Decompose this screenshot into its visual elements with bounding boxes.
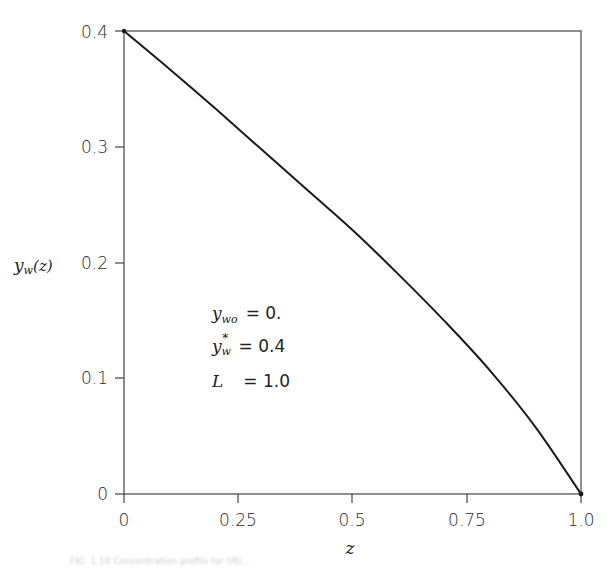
curve-start-point — [122, 29, 126, 33]
x-tick-label: 0.5 — [338, 510, 365, 530]
line-chart: 0 0.1 0.2 0.3 0.4 0 0.25 0.5 0.75 1.0 z … — [0, 0, 612, 571]
parameter-annotations: ywo= 0. yw*= 0.4 L= 1.0 — [211, 303, 290, 391]
y-axis-ticks — [115, 31, 124, 494]
annotation-yw-star: yw*= 0.4 — [211, 330, 285, 358]
x-axis-title: z — [345, 538, 356, 558]
y-axis-title-main: y — [13, 255, 24, 275]
x-tick-label: 1.0 — [567, 510, 594, 530]
x-axis-ticks — [124, 494, 581, 503]
annotation-ywo: ywo= 0. — [211, 303, 282, 326]
y-tick-label: 0.1 — [81, 368, 108, 388]
curve-end-point — [579, 492, 584, 497]
y-tick-label: 0.3 — [81, 137, 108, 157]
x-tick-label: 0.75 — [448, 510, 486, 530]
data-line-yw — [124, 31, 581, 494]
x-axis-tick-labels: 0 0.25 0.5 0.75 1.0 — [119, 510, 595, 530]
y-axis-tick-labels: 0 0.1 0.2 0.3 0.4 — [81, 22, 108, 504]
svg-text:yw(z): yw(z) — [13, 255, 53, 277]
figure-caption: FIG. 1.10 Concentration profile for Ulti… — [70, 556, 410, 566]
y-axis-title: yw(z) — [13, 255, 53, 277]
x-tick-label: 0.25 — [219, 510, 257, 530]
x-tick-label: 0 — [119, 510, 130, 530]
plot-frame — [124, 31, 581, 494]
y-tick-label: 0 — [97, 484, 108, 504]
y-tick-label: 0.4 — [81, 22, 108, 42]
y-tick-label: 0.2 — [81, 253, 108, 273]
annotation-L: L= 1.0 — [211, 371, 290, 391]
y-axis-title-arg: (z) — [33, 257, 53, 275]
